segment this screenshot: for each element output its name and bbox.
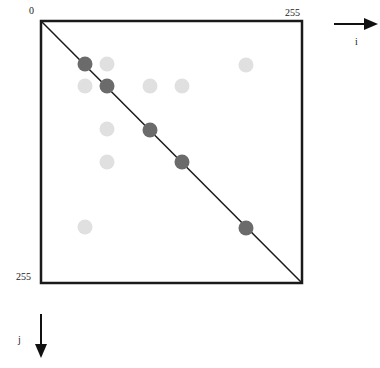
co-occurrence-diagram xyxy=(0,0,380,368)
on-diagonal-point xyxy=(143,123,158,138)
on-diagonal-point xyxy=(239,221,254,236)
on-diagonal-point xyxy=(100,79,115,94)
off-diagonal-point xyxy=(78,79,93,94)
off-diagonal-point xyxy=(100,155,115,170)
j-max-label: 255 xyxy=(16,271,31,282)
j-axis-arrow xyxy=(35,314,47,358)
off-diagonal-point xyxy=(78,220,93,235)
off-diagonal-point xyxy=(143,79,158,94)
off-diagonal-point xyxy=(100,122,115,137)
off-diagonal-point xyxy=(239,58,254,73)
off-diagonal-point xyxy=(175,79,190,94)
origin-label: 0 xyxy=(29,5,34,16)
off-diagonal-point xyxy=(100,57,115,72)
i-axis-label: i xyxy=(355,36,358,47)
j-axis-label: j xyxy=(18,334,21,345)
i-axis-arrow xyxy=(334,18,378,30)
i-max-label: 255 xyxy=(285,7,300,18)
on-diagonal-point xyxy=(175,155,190,170)
on-diagonal-point xyxy=(78,57,93,72)
